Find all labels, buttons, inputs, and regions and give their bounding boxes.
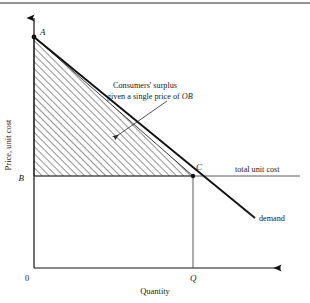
annotation-line-2-prefix: given a single price of (107, 92, 182, 101)
economics-diagram: A B C Q 0 Quantity Price, unit cost Cons… (0, 0, 310, 303)
point-marker-a (32, 35, 37, 40)
label-point-c: C (196, 162, 203, 172)
point-marker-c (191, 174, 195, 178)
label-point-a: A (39, 27, 46, 37)
label-total-unit-cost: total unit cost (235, 165, 280, 174)
y-axis-label: Price, unit cost (3, 119, 13, 170)
annotation-line-1: Consumers' surplus (113, 81, 177, 90)
x-axis-label: Quantity (140, 286, 170, 296)
label-point-b: B (19, 173, 25, 183)
demand-label-leader (243, 209, 255, 218)
label-origin: 0 (25, 273, 29, 283)
label-point-q: Q (190, 273, 197, 283)
label-demand: demand (259, 214, 285, 223)
annotation-line-2-emphasis: OB (182, 92, 193, 101)
annotation-line-2: given a single price of OB (107, 92, 193, 101)
